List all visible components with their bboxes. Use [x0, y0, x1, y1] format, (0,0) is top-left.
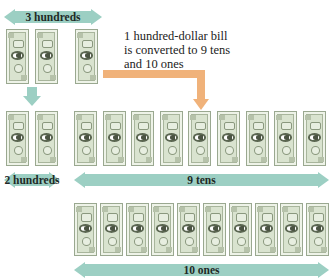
- bill-seal: [83, 64, 93, 73]
- bill-corner-br: [261, 157, 266, 162]
- bill-corner-br: [295, 247, 300, 252]
- two-hundreds-label: 2 hundreds: [4, 172, 60, 188]
- bill-corner-tl: [276, 115, 281, 120]
- bill-corner-tl: [219, 115, 224, 120]
- bill-portrait: [260, 224, 273, 232]
- bill-portrait: [131, 224, 144, 232]
- bill-top: [82, 40, 92, 49]
- ten-dollar-bill: [303, 111, 326, 166]
- bill-corner-br: [141, 247, 146, 252]
- bill-corner-tl: [8, 115, 13, 120]
- bill-portrait: [308, 133, 321, 141]
- bill-top: [313, 213, 323, 222]
- bill-corner-br: [118, 157, 123, 162]
- bill-seal: [43, 146, 53, 155]
- bill-corner-br: [89, 247, 94, 252]
- one-dollar-bill: [100, 203, 123, 256]
- bill-top: [253, 122, 263, 131]
- bill-seal: [159, 237, 169, 246]
- bill-corner-tl: [77, 33, 82, 38]
- bill-corner-br: [232, 157, 237, 162]
- bill-top: [133, 213, 143, 222]
- bill-seal: [108, 237, 118, 246]
- bill-corner-br: [166, 247, 171, 252]
- bill-seal: [185, 237, 195, 246]
- hundred-dollar-bill: [35, 29, 58, 84]
- bill-corner-tl: [133, 115, 138, 120]
- bill-portrait: [79, 133, 92, 141]
- bill-corner-br: [203, 157, 208, 162]
- bill-portrait: [11, 133, 24, 141]
- hundred-dollar-bill: [6, 29, 29, 84]
- bill-top: [287, 213, 297, 222]
- bill-corner-tl: [231, 207, 236, 212]
- bill-seal: [14, 146, 24, 155]
- bill-top: [210, 213, 220, 222]
- bill-corner-tl: [76, 207, 81, 212]
- bill-corner-br: [244, 247, 249, 252]
- bill-portrait: [11, 51, 24, 59]
- hundred-dollar-bill: [35, 111, 58, 166]
- bill-portrait: [156, 224, 169, 232]
- ten-dollar-bill: [274, 111, 297, 166]
- bill-portrait: [40, 133, 53, 141]
- bill-corner-tl: [8, 33, 13, 38]
- bill-portrait: [165, 133, 178, 141]
- bill-portrait: [285, 224, 298, 232]
- bill-corner-br: [321, 247, 326, 252]
- bill-top: [224, 122, 234, 131]
- bill-seal: [225, 146, 235, 155]
- one-dollar-bill: [280, 203, 303, 256]
- ten-dollar-bill: [160, 111, 183, 166]
- ten-ones-label: 10 ones: [74, 262, 329, 278]
- bill-corner-br: [50, 75, 55, 80]
- bill-top: [42, 40, 52, 49]
- bill-corner-br: [115, 247, 120, 252]
- bill-seal: [211, 237, 221, 246]
- caption-line-1: 1 hundred-dollar bill: [124, 29, 324, 43]
- bill-corner-br: [175, 157, 180, 162]
- bill-top: [42, 122, 52, 131]
- two-hundreds-arrow: 2 hundreds: [4, 172, 60, 188]
- bill-seal: [282, 146, 292, 155]
- bill-seal: [134, 237, 144, 246]
- bill-portrait: [79, 224, 92, 232]
- bill-corner-tl: [179, 207, 184, 212]
- bill-corner-br: [192, 247, 197, 252]
- caption-line-3: and 10 ones: [124, 57, 324, 71]
- one-dollar-bill: [255, 203, 278, 256]
- bill-top: [236, 213, 246, 222]
- bill-portrait: [136, 133, 149, 141]
- bill-portrait: [222, 133, 235, 141]
- bill-corner-tl: [37, 115, 42, 120]
- bill-seal: [254, 146, 264, 155]
- bill-top: [138, 122, 148, 131]
- caption-line-2: is converted to 9 tens: [124, 43, 324, 57]
- bill-corner-br: [89, 157, 94, 162]
- bill-portrait: [234, 224, 247, 232]
- bill-seal: [311, 146, 321, 155]
- three-hundreds-label: 3 hundreds: [4, 9, 102, 25]
- bill-seal: [237, 237, 247, 246]
- bill-top: [81, 213, 91, 222]
- hundred-dollar-bill: [75, 29, 98, 84]
- bill-corner-br: [146, 157, 151, 162]
- bill-corner-br: [21, 75, 26, 80]
- bill-corner-br: [318, 157, 323, 162]
- bill-portrait: [105, 224, 118, 232]
- bill-corner-br: [90, 75, 95, 80]
- bill-top: [195, 122, 205, 131]
- bill-seal: [82, 146, 92, 155]
- bill-top: [158, 213, 168, 222]
- one-dollar-bill: [151, 203, 174, 256]
- bill-corner-br: [289, 157, 294, 162]
- bill-portrait: [182, 224, 195, 232]
- three-hundreds-arrow: 3 hundreds: [4, 9, 102, 25]
- bill-top: [81, 122, 91, 131]
- ten-dollar-bill: [131, 111, 154, 166]
- bill-corner-tl: [162, 115, 167, 120]
- bill-portrait: [193, 133, 206, 141]
- bill-seal: [14, 64, 24, 73]
- bill-corner-tl: [105, 115, 110, 120]
- bill-top: [310, 122, 320, 131]
